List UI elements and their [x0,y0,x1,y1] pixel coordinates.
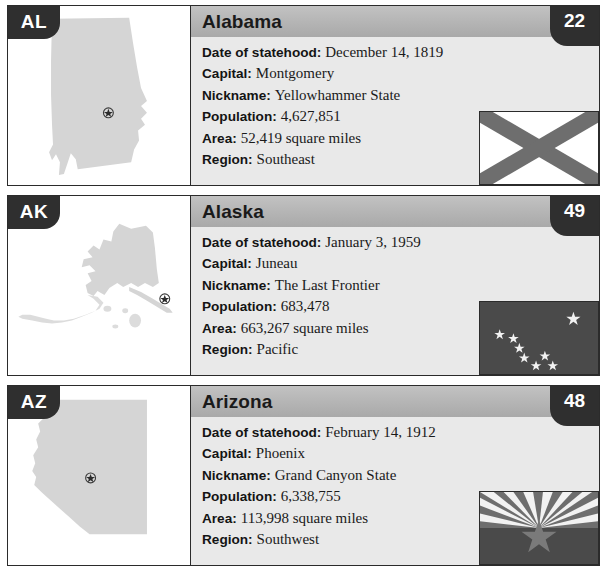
fact-row-capital: Capital: Montgomery [202,63,599,84]
statehood-rank-label: 22 [564,10,585,32]
population-label: Population: [202,299,277,314]
statehood-label: Date of statehood: [202,425,321,440]
region-label: Region: [202,342,253,357]
alaska-flag [480,302,598,374]
capital-label: Capital: [202,446,252,461]
nickname-value: Grand Canyon State [275,467,397,483]
region-value: Pacific [257,341,299,357]
info-panel: Arizona 48 Date of statehood: February 1… [191,386,599,565]
nickname-label: Nickname: [202,278,271,293]
map-panel: AZ [8,386,191,565]
state-abbreviation-badge: AL [8,6,60,39]
state-name-title: Alabama [191,11,282,33]
region-label: Region: [202,152,253,167]
state-abbreviation-badge: AZ [8,386,60,419]
state-abbreviation-label: AZ [21,391,47,413]
capital-value: Phoenix [256,445,305,461]
arizona-flag [480,492,598,564]
card-header: Arizona [191,386,599,417]
fact-row-capital: Capital: Juneau [202,253,599,274]
nickname-value: The Last Frontier [275,277,380,293]
statehood-rank-label: 49 [564,200,585,222]
card-header: Alabama [191,6,599,37]
capital-label: Capital: [202,66,252,81]
state-card[interactable]: AK Alaska [7,195,600,376]
area-label: Area: [202,321,237,336]
fact-row-nickname: Nickname: The Last Frontier [202,275,599,296]
statehood-value: January 3, 1959 [325,234,420,250]
statehood-value: December 14, 1819 [325,44,443,60]
region-label: Region: [202,532,253,547]
state-card[interactable]: AZ Arizona 48 Date of statehood: Febr [7,385,600,566]
statehood-rank-badge: 48 [550,386,599,426]
state-cards-page: AL Alabama 22 Date of statehood: Dece [0,0,607,580]
area-label: Area: [202,511,237,526]
map-panel: AK [8,196,191,375]
statehood-rank-badge: 22 [550,6,599,46]
area-value: 113,998 square miles [241,510,368,526]
state-name-title: Arizona [191,391,272,413]
info-panel: Alaska 49 Date of statehood: January 3, … [191,196,599,375]
population-value: 6,338,755 [281,488,341,504]
population-label: Population: [202,489,277,504]
capital-value: Juneau [256,255,298,271]
area-value: 52,419 square miles [241,130,361,146]
state-flag [479,491,599,565]
statehood-label: Date of statehood: [202,45,321,60]
state-flag [479,111,599,185]
fact-row-nickname: Nickname: Grand Canyon State [202,465,599,486]
population-value: 683,478 [281,298,330,314]
capital-label: Capital: [202,256,252,271]
area-label: Area: [202,131,237,146]
population-value: 4,627,851 [281,108,341,124]
capital-star-marker [160,294,170,304]
region-value: Southwest [257,531,320,547]
fact-row-nickname: Nickname: Yellowhammer State [202,85,599,106]
capital-value: Montgomery [256,65,334,81]
population-label: Population: [202,109,277,124]
state-name-title: Alaska [191,201,264,223]
statehood-rank-label: 48 [564,390,585,412]
card-header: Alaska [191,196,599,227]
state-card[interactable]: AL Alabama 22 Date of statehood: Dece [7,5,600,186]
state-abbreviation-label: AL [21,11,47,33]
fact-row-statehood: Date of statehood: February 14, 1912 [202,422,599,443]
nickname-label: Nickname: [202,88,271,103]
map-panel: AL [8,6,191,185]
region-value: Southeast [257,151,315,167]
fact-row-statehood: Date of statehood: January 3, 1959 [202,232,599,253]
state-abbreviation-label: AK [20,201,48,223]
info-panel: Alabama 22 Date of statehood: December 1… [191,6,599,185]
fact-row-statehood: Date of statehood: December 14, 1819 [202,42,599,63]
alabama-flag [480,112,598,184]
nickname-label: Nickname: [202,468,271,483]
state-abbreviation-badge: AK [8,196,60,229]
state-flag [479,301,599,375]
area-value: 663,267 square miles [241,320,369,336]
statehood-rank-badge: 49 [550,196,599,236]
fact-row-capital: Capital: Phoenix [202,443,599,464]
statehood-value: February 14, 1912 [325,424,435,440]
statehood-label: Date of statehood: [202,235,321,250]
nickname-value: Yellowhammer State [275,87,401,103]
